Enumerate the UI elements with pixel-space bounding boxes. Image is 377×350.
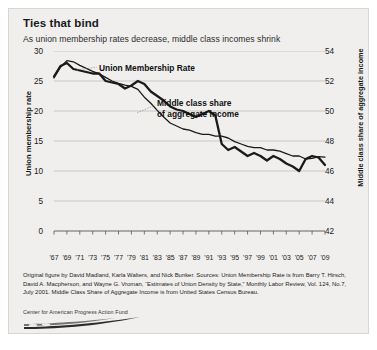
gridlines (54, 51, 325, 231)
leader-line-middle (137, 105, 155, 113)
figure-panel: Ties that bind As union membership rates… (8, 8, 369, 334)
logo-text: Center for American Progress Action Fund (23, 309, 143, 315)
figure-subtitle: As union membership rates decrease, midd… (23, 34, 280, 44)
x-tick-marks (54, 231, 325, 235)
series-label-union-membership-rate: Union Membership Rate (99, 63, 195, 74)
chart-svg (9, 51, 368, 266)
series-label-middle-class-share: Middle class share of aggregate income (157, 98, 239, 120)
series-label-union-text: Union Membership Rate (99, 63, 195, 73)
cap-action-fund-logo: Center for American Progress Action Fund (23, 309, 143, 330)
figure-footnote: Original figure by David Madland, Karla … (23, 271, 357, 297)
series-label-middle-line2: of aggregate income (157, 109, 239, 120)
chart-plot-area: Union membership rate Middle class share… (9, 51, 368, 266)
page-title: Ties that bind (23, 17, 99, 29)
logo-swoosh-icon (23, 316, 141, 330)
series-label-middle-line1: Middle class share (157, 98, 239, 109)
x-tick-label-09: '09 (316, 254, 334, 261)
